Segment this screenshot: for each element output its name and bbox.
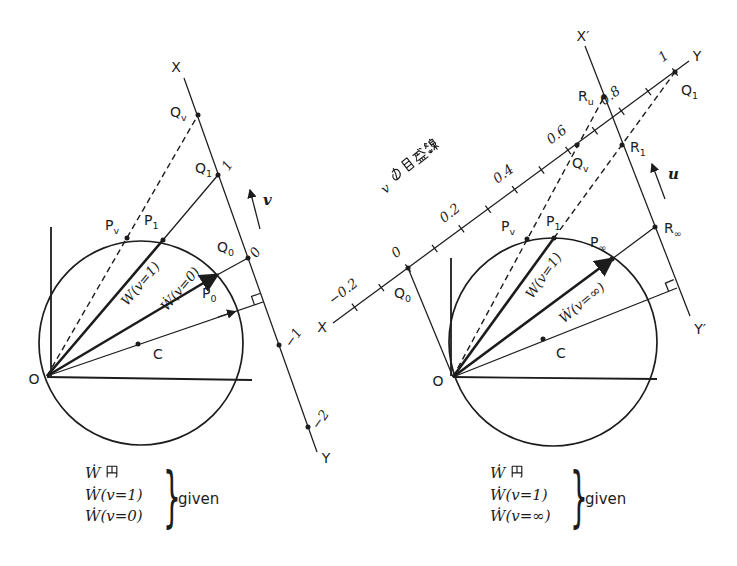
right-segment-Pinf-Rinf <box>612 227 655 259</box>
right-scale-x-label: X <box>317 319 327 335</box>
right-diagram: −0.2 0 0.2 0.4 0.6 0.8 1 v X′ Y′ Y X O C… <box>317 28 706 535</box>
right-scale-label-0: 0 <box>388 243 405 261</box>
right-u-direction-arrow <box>652 164 665 199</box>
left-legend-given: given <box>178 490 219 508</box>
left-legend-line2: Ẇ(v=1) <box>85 486 143 504</box>
left-center-label: C <box>153 346 163 362</box>
right-point-label-P1: P1 <box>546 213 561 232</box>
right-dot-C <box>541 337 546 342</box>
left-y-axis-label: Y <box>321 450 331 466</box>
right-scale-label-m02: −0.2 <box>325 275 361 308</box>
left-ray-O-Qv-dashed <box>47 115 198 376</box>
left-dot-Pv <box>125 236 130 241</box>
right-scale-label-04: 0.4 <box>489 161 516 187</box>
left-dot-C <box>136 342 141 347</box>
right-legend: Ẇ Ẇ(v=1) Ẇ(v=∞) } given <box>490 458 626 535</box>
left-dot-Q1 <box>216 173 221 178</box>
left-point-label-Q0: Q0 <box>217 239 234 258</box>
figure-canvas: X Y O C Qv Q1 Q0 Pv P1 P0 1 0 −1 −2 v W(… <box>0 0 737 566</box>
left-legend-yen-kanji <box>107 466 117 477</box>
right-scale-label-06: 0.6 <box>543 121 570 147</box>
right-xprime-label: X′ <box>577 28 590 44</box>
right-point-label-Q0: Q0 <box>394 285 411 304</box>
left-dot-Q0 <box>246 256 251 261</box>
tick-0.2 <box>459 225 464 232</box>
tick-0.1 <box>432 245 437 252</box>
right-legend-yen-kanji <box>512 466 522 477</box>
right-yprime-label: Y′ <box>693 321 706 337</box>
left-v-arrow-label: v <box>263 191 272 209</box>
right-u-arrow-label: u <box>668 165 679 183</box>
right-dot-Q0 <box>406 266 411 271</box>
left-origin-label: O <box>28 371 39 387</box>
right-dot-Qv <box>575 143 580 148</box>
figure: X Y O C Qv Q1 Q0 Pv P1 P0 1 0 −1 −2 v W(… <box>0 0 737 566</box>
tick-0.3 <box>485 206 490 213</box>
left-oc-line-arrow <box>218 312 235 317</box>
left-point-label-Q1: Q1 <box>195 160 212 179</box>
right-scale-label-1: 1 <box>655 47 672 65</box>
right-v-scale-title-kanji <box>388 138 439 182</box>
right-legend-line3: Ẇ(v=∞) <box>490 507 551 525</box>
tick--0.1 <box>379 284 384 291</box>
left-point-label-P1: P1 <box>144 212 159 231</box>
left-legend: Ẇ Ẇ(v=1) Ẇ(v=0) } given <box>85 458 219 535</box>
right-scale-y-label: Y <box>692 48 702 64</box>
right-point-label-R1: R1 <box>630 139 646 158</box>
left-x-axis-label: X <box>171 59 181 75</box>
right-origin-label: O <box>432 373 443 389</box>
right-scale-label-02: 0.2 <box>436 200 463 226</box>
right-point-label-Pinf: P∞ <box>590 234 606 253</box>
left-legend-line1-w: Ẇ <box>85 464 102 482</box>
left-tick-label-minus2: −2 <box>308 406 333 431</box>
right-point-label-Qv: Qv <box>572 155 589 174</box>
right-dot-Rinf <box>653 225 658 230</box>
left-point-label-Pv: Pv <box>105 217 119 236</box>
right-point-label-Pv: Pv <box>501 218 515 237</box>
right-point-label-Rinf: R∞ <box>664 220 682 239</box>
left-xy-scale-line <box>184 78 317 452</box>
left-point-label-Qv: Qv <box>170 104 187 123</box>
tick--0.2 <box>352 304 357 311</box>
left-tick-label-minus1: −1 <box>281 324 306 349</box>
left-segment-P1-Q1 <box>163 175 218 240</box>
left-point-label-P0: P0 <box>202 285 217 304</box>
right-point-label-Q1: Q1 <box>681 82 698 101</box>
right-dot-Pinf <box>610 257 615 262</box>
left-dot-minus1 <box>277 343 282 348</box>
right-center-label: C <box>556 345 566 361</box>
left-horizontal-axis <box>47 377 252 380</box>
right-v-scale-title-prefix: v <box>377 179 393 197</box>
left-dot-P1 <box>161 238 166 243</box>
right-dot-Q1 <box>673 70 678 75</box>
right-dot-Pv <box>525 237 530 242</box>
right-dot-P1 <box>552 236 557 241</box>
right-point-label-Ru: Ru <box>578 88 594 107</box>
right-legend-line2: Ẇ(v=1) <box>490 486 548 504</box>
right-phasor-w-v1 <box>453 238 554 377</box>
left-dot-Qv <box>196 113 201 118</box>
right-legend-given: given <box>585 490 626 508</box>
left-diagram: X Y O C Qv Q1 Q0 Pv P1 P0 1 0 −1 −2 v W(… <box>28 59 332 535</box>
right-v-scale-title: v <box>375 138 443 197</box>
left-legend-line3: Ẇ(v=0) <box>85 507 143 525</box>
left-v-direction-arrow <box>250 190 260 229</box>
left-tick-label-1: 1 <box>218 157 236 173</box>
left-segment-P0-Q0 <box>217 258 248 275</box>
right-line-O-Q0 <box>408 268 453 377</box>
right-legend-line1-w: Ẇ <box>490 464 507 482</box>
right-horizontal-axis <box>453 377 657 379</box>
right-dot-R1 <box>620 143 625 148</box>
